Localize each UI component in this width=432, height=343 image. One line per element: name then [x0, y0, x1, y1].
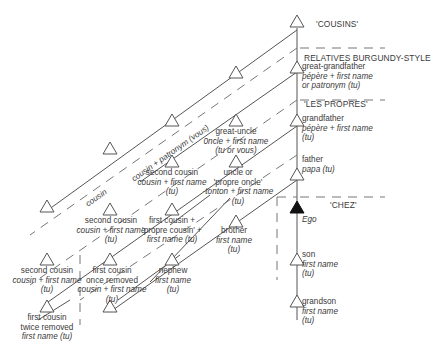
node-first-cousin-twice-removed: first cousin twice removed first name (t…	[21, 313, 74, 342]
node-grandfather: grandfather pépère + first name (tu)	[302, 114, 373, 143]
node-great-uncle: great-uncle 0ncle + first name (tu or vo…	[204, 127, 269, 156]
section-chez: 'CHEZ'	[330, 200, 357, 210]
node-first-cousin-once-removed: first cousin once removed cousin + first…	[78, 266, 147, 304]
node-second-cousin-mid: second cousin cousin + first name (tu)	[77, 216, 146, 245]
node-ego: Ego	[302, 215, 317, 225]
node-second-cousin-upper: second cousin cousin + first name (tu)	[138, 168, 207, 197]
node-first-cousin: first cousin + 'propre cousin' + first n…	[142, 216, 202, 245]
ego-triangle	[290, 201, 304, 213]
node-second-cousin-lower: second cousin cousin + first name (tu)	[13, 266, 82, 295]
node-great-grandfather: great-grandfather pépère + first name or…	[302, 62, 373, 91]
node-nephew: nephew first name (tu)	[155, 266, 191, 295]
node-son: son first name (tu)	[302, 250, 338, 279]
section-propres: 'LES PROPRES'	[304, 99, 368, 109]
node-father: father papa (tu)	[302, 155, 335, 174]
node-brother: brother first name (tu)	[216, 226, 252, 255]
node-uncle: uncle or 'propre oncle' -tonton + first …	[203, 168, 274, 206]
section-cousins: 'COUSINS'	[316, 19, 358, 29]
node-grandson: grandson first name (tu)	[302, 297, 338, 326]
